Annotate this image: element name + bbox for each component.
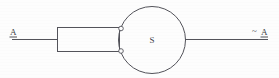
block-rectangle xyxy=(58,28,120,52)
output-prefix-label: ~ xyxy=(252,26,257,36)
input-label: A xyxy=(10,27,17,37)
lower-terminal-icon xyxy=(119,49,124,54)
output-label: A xyxy=(261,27,268,37)
upper-terminal-icon xyxy=(119,26,124,31)
schematic-svg: A S ~ A xyxy=(0,0,279,78)
diagram-canvas: A S ~ A xyxy=(0,0,279,78)
circle-label: S xyxy=(149,35,154,45)
